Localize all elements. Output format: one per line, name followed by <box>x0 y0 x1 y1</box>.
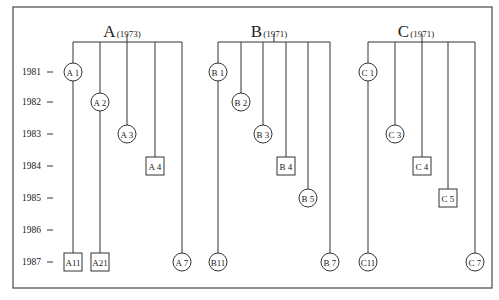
node-label: B 7 <box>324 258 337 268</box>
branch: A 2A21 <box>91 42 109 271</box>
group-C: C(1971)C 1C11C 3C 4C 5C 7 <box>359 22 484 271</box>
node-label: A 3 <box>121 130 134 140</box>
group-founding-year: (1973) <box>117 29 141 39</box>
node-b3: B 3 <box>254 125 272 143</box>
node-c5: C 5 <box>439 189 457 207</box>
node-label: A 4 <box>149 162 162 172</box>
year-row-1984: 1984 <box>22 161 53 171</box>
branch: B 5 <box>299 42 317 207</box>
node-a4: A 4 <box>146 157 164 175</box>
node-c7: C 7 <box>466 253 484 271</box>
node-a21: A21 <box>91 253 109 271</box>
branch: A 3 <box>118 42 136 143</box>
node-label: C11 <box>361 258 376 268</box>
branch: C 4 <box>413 42 431 175</box>
node-label: B11 <box>211 258 226 268</box>
node-b5: B 5 <box>299 189 317 207</box>
node-label: C 7 <box>469 258 482 268</box>
year-label: 1987 <box>22 257 41 267</box>
node-a3: A 3 <box>118 125 136 143</box>
branch: C 1C11 <box>359 42 377 271</box>
node-a11: A11 <box>64 253 82 271</box>
node-label: B 1 <box>212 68 225 78</box>
node-b7: B 7 <box>321 253 339 271</box>
lineage-groups: A(1973)A 1A11A 2A21A 3A 4A 7B(1971)B 1B1… <box>64 22 484 271</box>
branch: A 1A11 <box>64 42 82 271</box>
year-label: 1985 <box>22 193 41 203</box>
genealogy-diagram: 1981198219831984198519861987 A(1973)A 1A… <box>0 0 499 300</box>
branch: A 4 <box>146 42 164 175</box>
node-b1: B 1 <box>209 63 227 81</box>
node-a2: A 2 <box>91 93 109 111</box>
node-label: B 4 <box>280 162 293 172</box>
year-label: 1983 <box>22 129 41 139</box>
node-label: C 1 <box>362 68 375 78</box>
node-label: A 7 <box>176 258 189 268</box>
year-label: 1986 <box>22 225 41 235</box>
node-a7: A 7 <box>173 253 191 271</box>
branch: C 5 <box>439 42 457 207</box>
node-c4: C 4 <box>413 157 431 175</box>
branch: C 7 <box>466 42 484 271</box>
year-row-1986: 1986 <box>22 225 53 235</box>
node-c11: C11 <box>359 253 377 271</box>
group-B: B(1971)B 1B11B 2B 3B 4B 5B 7 <box>209 22 339 271</box>
branch: B 4 <box>277 42 295 175</box>
year-row-1985: 1985 <box>22 193 53 203</box>
group-letter: C <box>398 22 409 41</box>
year-row-1982: 1982 <box>22 97 53 107</box>
branch: B 2 <box>232 42 250 111</box>
node-label: C 5 <box>442 194 455 204</box>
node-label: A 2 <box>94 98 107 108</box>
year-axis: 1981198219831984198519861987 <box>22 67 53 267</box>
node-label: B 2 <box>235 98 248 108</box>
node-c3: C 3 <box>386 125 404 143</box>
node-label: A11 <box>65 258 80 268</box>
branch: B 3 <box>254 42 272 143</box>
branch: B 7 <box>321 42 339 271</box>
node-label: A 1 <box>67 68 80 78</box>
group-letter: B <box>251 22 262 41</box>
year-label: 1982 <box>22 97 41 107</box>
year-row-1987: 1987 <box>22 257 53 267</box>
year-row-1983: 1983 <box>22 129 53 139</box>
node-label: A21 <box>92 258 108 268</box>
node-b2: B 2 <box>232 93 250 111</box>
group-A: A(1973)A 1A11A 2A21A 3A 4A 7 <box>64 22 191 271</box>
node-a1: A 1 <box>64 63 82 81</box>
node-b4: B 4 <box>277 157 295 175</box>
node-label: B 5 <box>302 194 315 204</box>
node-label: C 3 <box>389 130 402 140</box>
node-label: C 4 <box>416 162 429 172</box>
branch: C 3 <box>386 42 404 143</box>
branch: A 7 <box>173 42 191 271</box>
diagram-frame <box>13 7 492 288</box>
group-founding-year: (1971) <box>263 29 287 39</box>
group-title: B(1971) <box>251 22 287 41</box>
group-title: C(1971) <box>398 22 434 41</box>
group-letter: A <box>103 22 116 41</box>
year-label: 1981 <box>22 67 41 77</box>
year-row-1981: 1981 <box>22 67 53 77</box>
branch: B 1B11 <box>209 42 227 271</box>
year-label: 1984 <box>22 161 41 171</box>
group-title: A(1973) <box>103 22 140 41</box>
node-label: B 3 <box>257 130 270 140</box>
node-b11: B11 <box>209 253 227 271</box>
node-c1: C 1 <box>359 63 377 81</box>
